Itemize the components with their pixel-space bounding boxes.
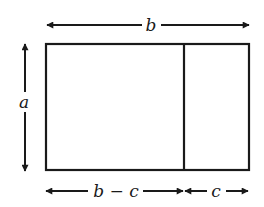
bottom-right-width-arrow: c: [185, 181, 248, 201]
left-height-arrow: a: [19, 44, 29, 171]
bottom-left-width-arrow: b − c: [46, 181, 183, 201]
outer-rectangle: [46, 44, 249, 170]
label-b: b: [146, 15, 157, 35]
label-a: a: [19, 92, 29, 112]
label-b-minus-c: b − c: [93, 181, 139, 201]
top-width-arrow: b: [47, 15, 249, 35]
rectangle-diagram: b a b − c c: [0, 0, 264, 207]
label-c: c: [211, 181, 221, 201]
